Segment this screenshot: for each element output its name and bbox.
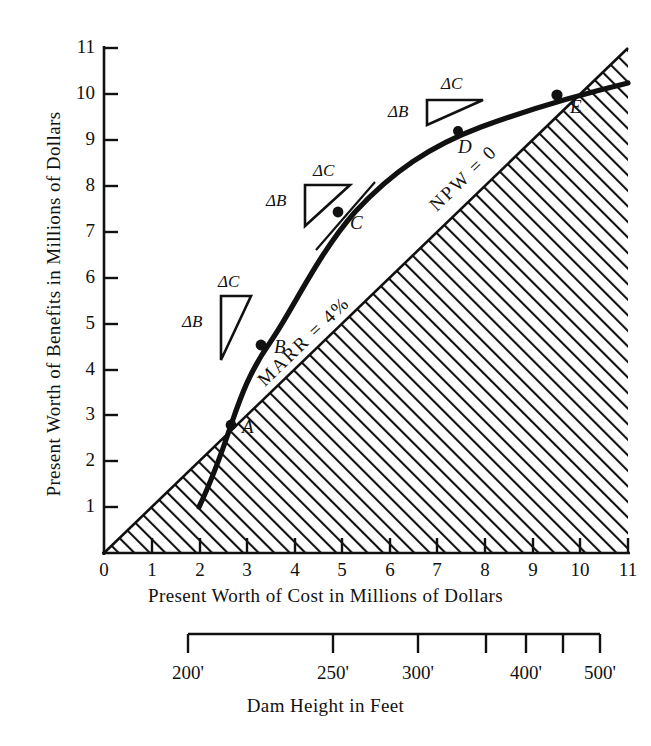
- y-tick-4: 4: [55, 358, 95, 380]
- y-tick-5: 5: [55, 312, 95, 334]
- y-tick-3: 3: [55, 403, 95, 425]
- x-tick-2: 2: [180, 559, 220, 581]
- y-axis-ticks: [104, 48, 118, 507]
- dam-height-axis: [188, 634, 600, 653]
- delta-b-label-d: ΔB: [388, 102, 408, 122]
- dam-tick-200: 200': [158, 662, 218, 684]
- x-tick-4: 4: [275, 559, 315, 581]
- y-tick-8: 8: [55, 174, 95, 196]
- x-tick-8: 8: [465, 559, 505, 581]
- y-tick-2: 2: [55, 449, 95, 471]
- delta-c-label-d: ΔC: [441, 74, 462, 94]
- delta-b-label-c: ΔB: [266, 191, 286, 211]
- x-tick-0: 0: [84, 559, 124, 581]
- x-tick-6: 6: [370, 559, 410, 581]
- y-tick-7: 7: [55, 220, 95, 242]
- tangent-line-at-c: [316, 182, 375, 250]
- marker-label-a: A: [242, 416, 254, 438]
- delta-c-label-b: ΔC: [218, 272, 239, 292]
- y-tick-10: 10: [55, 82, 95, 104]
- dam-tick-500: 500': [570, 662, 630, 684]
- slope-triangle-b: [221, 296, 251, 360]
- x-tick-7: 7: [417, 559, 457, 581]
- marker-label-c: C: [350, 212, 363, 234]
- marker-label-e: E: [570, 96, 582, 118]
- benefit-cost-chart: Present Worth of Benefits in Millions of…: [0, 0, 651, 746]
- x-tick-5: 5: [322, 559, 362, 581]
- slope-triangle-d: [427, 100, 483, 125]
- x-tick-1: 1: [132, 559, 172, 581]
- dam-tick-400: 400': [496, 662, 556, 684]
- marker-label-d: D: [458, 136, 472, 158]
- delta-b-label-b: ΔB: [182, 312, 202, 332]
- y-tick-9: 9: [55, 128, 95, 150]
- x-tick-9: 9: [513, 559, 553, 581]
- plot-svg: [0, 0, 651, 746]
- x-tick-10: 10: [560, 559, 600, 581]
- dam-tick-250: 250': [303, 662, 363, 684]
- x-tick-11: 11: [608, 559, 648, 581]
- y-tick-1: 1: [55, 495, 95, 517]
- x-tick-3: 3: [227, 559, 267, 581]
- dam-tick-300: 300': [388, 662, 448, 684]
- y-tick-11: 11: [55, 36, 95, 58]
- y-tick-6: 6: [55, 266, 95, 288]
- delta-c-label-c: ΔC: [313, 161, 334, 181]
